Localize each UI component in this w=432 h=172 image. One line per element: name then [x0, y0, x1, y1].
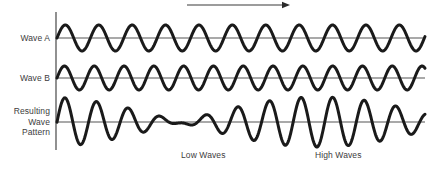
wave-a-label: Wave A — [2, 33, 50, 44]
resulting-wave-label: Resulting Wave Pattern — [2, 106, 50, 138]
wave-interference-figure: Wave A Wave B Resulting Wave Pattern Low… — [0, 0, 432, 172]
high-waves-caption: High Waves — [315, 150, 362, 160]
resulting-wave-label-line1: Resulting — [2, 106, 50, 117]
direction-arrow-head — [282, 2, 290, 8]
wave-b-label-text: Wave B — [20, 73, 50, 83]
low-waves-caption: Low Waves — [181, 150, 226, 160]
wave-b-label: Wave B — [2, 73, 50, 84]
resulting-wave-label-line2: Wave — [2, 117, 50, 128]
resulting-wave-label-line3: Pattern — [2, 127, 50, 138]
wave-plot-canvas — [0, 0, 432, 172]
wave-a-label-text: Wave A — [20, 33, 50, 43]
